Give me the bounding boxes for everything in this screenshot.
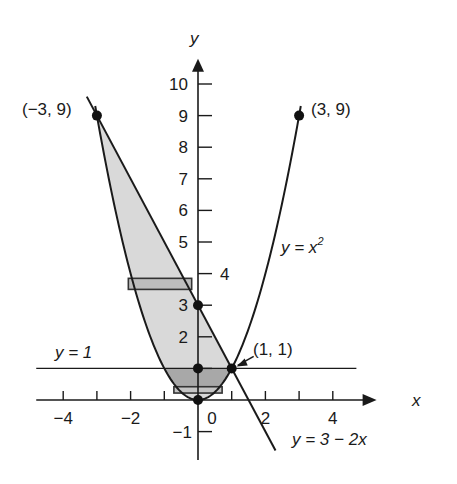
- y-tick-label: 10: [169, 75, 188, 94]
- point-marker: [193, 300, 203, 310]
- y-tick-label: 7: [179, 170, 188, 189]
- point-marker: [227, 363, 237, 373]
- y-tick-label: 2: [179, 328, 188, 347]
- y-tick-label: 8: [179, 138, 188, 157]
- x-tick-label: 0: [207, 409, 216, 428]
- parabola-label: y = x2: [280, 235, 324, 257]
- y-tick-label: −1: [173, 423, 192, 442]
- x-axis-arrow-icon: [363, 394, 377, 406]
- parabola-label-main: y = x: [280, 238, 318, 257]
- y-axis-arrow-icon: [192, 59, 204, 72]
- parabola-label-exponent: 2: [316, 235, 323, 247]
- x-tick-label: −4: [54, 409, 73, 428]
- pointer-arrow-head-icon: [237, 358, 248, 366]
- y-tick-label: 4: [220, 265, 229, 284]
- point-label-neg3-9: (−3, 9): [22, 100, 72, 119]
- point-label-1-1: (1, 1): [253, 340, 293, 359]
- region-diagram: −4−20241098765432−1 y x (−3, 9) (3, 9) (…: [0, 0, 457, 484]
- approximating-strip-1: [128, 278, 191, 289]
- point-marker: [92, 111, 102, 121]
- x-tick-label: −2: [121, 409, 140, 428]
- y-tick-label: 3: [179, 296, 188, 315]
- x-axis-label: x: [411, 391, 421, 410]
- shaded-region: [97, 116, 232, 400]
- y-axis-label: y: [189, 29, 200, 48]
- point-marker: [294, 111, 304, 121]
- point-label-3-9: (3, 9): [311, 100, 351, 119]
- line-label: y = 3 − 2x: [291, 430, 367, 449]
- point-marker: [193, 363, 203, 373]
- x-tick-label: 4: [328, 409, 337, 428]
- y-tick-label: 9: [179, 107, 188, 126]
- y-tick-label: 5: [179, 233, 188, 252]
- y-tick-label: 6: [179, 201, 188, 220]
- horizontal-line-label: y = 1: [54, 343, 92, 362]
- point-marker: [193, 395, 203, 405]
